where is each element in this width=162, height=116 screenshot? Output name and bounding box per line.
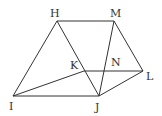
segment-HI	[13, 21, 57, 96]
label-L: L	[146, 70, 154, 83]
segment-IK	[13, 71, 84, 96]
vertex-labels: HMKNLIJ	[9, 7, 154, 114]
segment-JL	[99, 71, 143, 96]
geometry-diagram: HMKNLIJ	[0, 0, 162, 116]
label-H: H	[50, 7, 60, 20]
label-N: N	[111, 56, 121, 69]
label-J: J	[94, 101, 99, 114]
label-K: K	[70, 59, 79, 72]
label-M: M	[110, 7, 121, 20]
label-I: I	[9, 100, 13, 113]
